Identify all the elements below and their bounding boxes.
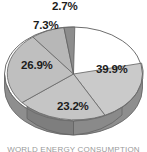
chart-caption: WORLD ENERGY CONSUMPTION xyxy=(0,144,147,152)
pie-label-26-9: 26.9% xyxy=(21,60,53,72)
pie-label-7-3: 7.3% xyxy=(33,20,58,32)
pie-label-2-7: 2.7% xyxy=(52,1,77,13)
pie-chart-figure: 39.9% 23.2% 26.9% 7.3% 2.7% WORLD ENERGY… xyxy=(0,0,147,152)
pie-label-23-2: 23.2% xyxy=(57,101,89,113)
pie-label-39-9: 39.9% xyxy=(96,64,128,76)
pie-chart-graphic xyxy=(0,0,147,152)
